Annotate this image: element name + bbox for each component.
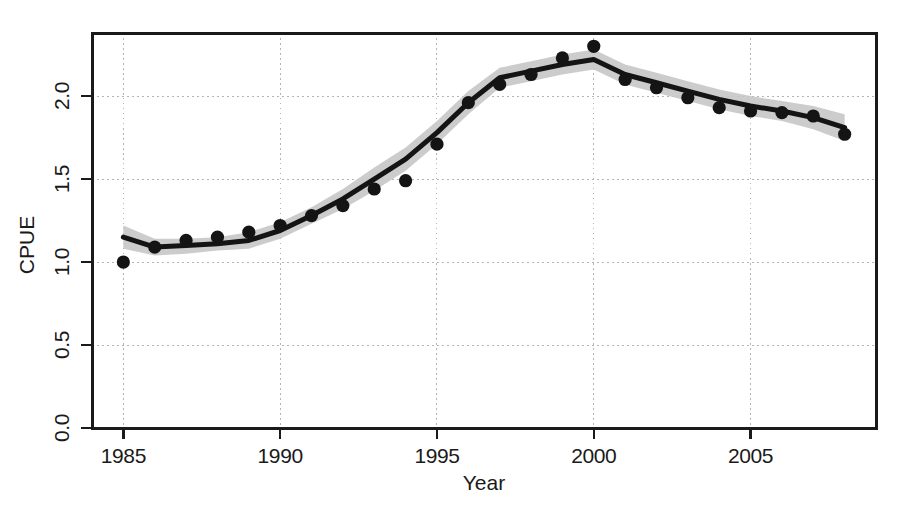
y-tick-label-1.5: 1.5 (50, 165, 74, 193)
confidence-band (123, 50, 844, 256)
x-tick-label-2000: 2000 (571, 444, 616, 468)
x-axis-title: Year (463, 471, 505, 495)
x-tick-label-1995: 1995 (414, 444, 459, 468)
y-axis-title: CPUE (15, 216, 39, 274)
y-tick-label-0.5: 0.5 (50, 331, 74, 359)
x-tick-label-1990: 1990 (258, 444, 303, 468)
y-tick-label-0.0: 0.0 (50, 414, 74, 442)
fitted-line (123, 60, 844, 248)
y-tick-label-1.0: 1.0 (50, 248, 74, 276)
y-tick-label-2.0: 2.0 (50, 82, 74, 110)
cpue-trend-figure: 19851990199520002005 0.00.51.01.52.0 Yea… (0, 0, 909, 509)
x-tick-label-1985: 1985 (101, 444, 146, 468)
x-tick-label-2005: 2005 (728, 444, 773, 468)
data-points (117, 40, 851, 269)
chart-canvas (0, 0, 909, 509)
